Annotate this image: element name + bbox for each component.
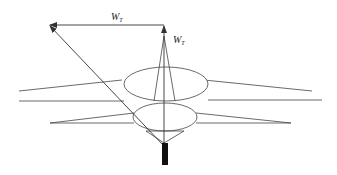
payload-block [162,143,168,165]
left-streamlines [19,80,134,123]
upper-canopy-ellipse [124,67,208,101]
label-subscript: T [181,40,184,46]
label-subscript: T [119,17,122,23]
diagram-canvas [0,0,337,175]
vertical-vector-label: WT [173,35,185,46]
right-streamlines [196,80,322,123]
horizontal-vector-label: WT [111,12,123,23]
lower-canopy-ellipse [133,103,197,131]
